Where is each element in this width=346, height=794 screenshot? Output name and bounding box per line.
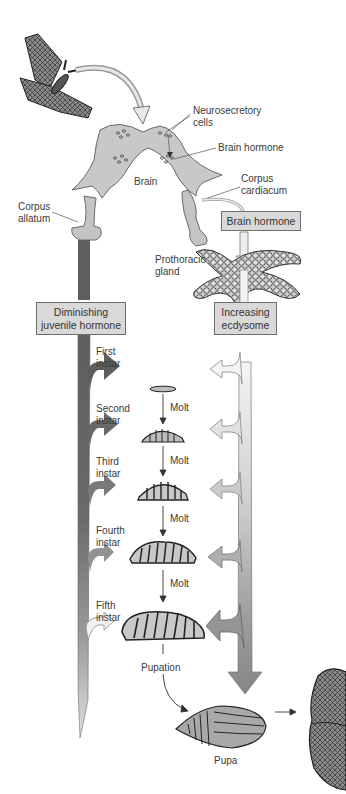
larva-stage-2 — [142, 429, 184, 442]
adult-butterfly-icon — [309, 669, 346, 790]
brain-hormone-label: Brain hormone — [218, 142, 284, 154]
juvenile-hormone-box: Diminishing juvenile hormone — [36, 302, 126, 335]
prothoracic-gland-label: Prothoracic gland — [155, 254, 206, 277]
adult-moth-icon — [20, 34, 92, 118]
stage-label-fourth-instar: Fourth instar — [96, 525, 125, 548]
molt-label-1: Molt — [170, 402, 189, 414]
molt-label-3: Molt — [170, 513, 189, 525]
juvenile-branch-arrows — [86, 352, 120, 640]
molt-label-2: Molt — [170, 455, 189, 467]
corpus-allatum-label: Corpus allatum — [18, 201, 50, 224]
stage-label-fifth-instar: Fifth instar — [96, 600, 120, 623]
molt-label-4: Molt — [170, 578, 189, 590]
larva-stage-1 — [150, 386, 176, 392]
stage-label-second-instar: Second instar — [96, 403, 130, 426]
pupa-label: Pupa — [214, 755, 237, 767]
larva-stage-4 — [130, 542, 196, 563]
metamorphosis-diagram — [0, 0, 346, 794]
brain-label: Brain — [134, 176, 157, 188]
neurosecretory-cells-label: Neurosecretory cells — [193, 105, 261, 128]
pupation-label: Pupation — [141, 662, 180, 674]
ecdysome-box: Increasing ecdysome — [214, 302, 277, 335]
stage-label-first-instar: First instar — [96, 346, 120, 369]
larva-stage-5 — [122, 612, 204, 640]
larva-stage-3 — [138, 482, 188, 500]
corpus-cardiacum-label: Corpus cardiacum — [241, 173, 287, 196]
brain-hormone-box: Brain hormone — [221, 211, 301, 231]
stage-label-third-instar: Third instar — [96, 456, 120, 479]
pupa-icon — [176, 706, 266, 748]
